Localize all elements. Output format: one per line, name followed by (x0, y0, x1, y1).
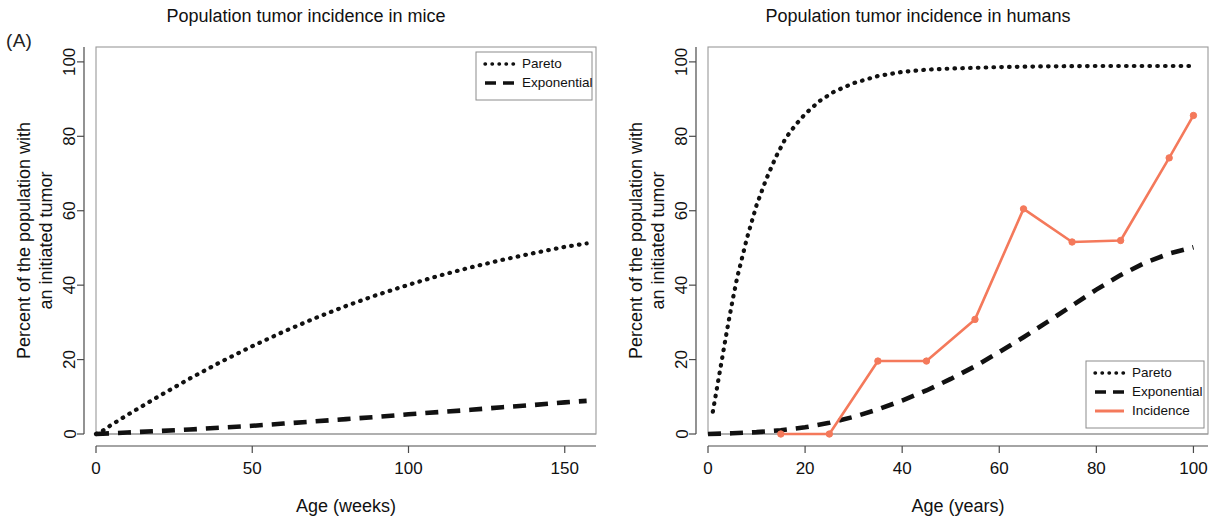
panel-b-plot: 020406080100020406080100Age (years)Perce… (612, 0, 1224, 522)
y-tick-label: 20 (61, 350, 80, 369)
y-axis-title-line1: Percent of the population with (14, 122, 34, 359)
y-tick-label: 0 (61, 429, 80, 438)
data-point (1166, 155, 1172, 161)
data-point (972, 316, 978, 322)
legend-label: Exponential (1132, 384, 1203, 399)
y-tick-label: 40 (61, 276, 80, 295)
data-point (875, 358, 881, 364)
legend-label: Exponential (522, 75, 593, 90)
data-point (1020, 206, 1026, 212)
y-tick-label: 0 (673, 429, 692, 438)
legend-label: Pareto (522, 56, 562, 71)
x-tick-label: 60 (990, 459, 1009, 478)
legend-label: Incidence (1132, 403, 1190, 418)
y-axis-title-line2: an initiated tumor (36, 171, 56, 309)
data-point (923, 358, 929, 364)
x-tick-label: 40 (893, 459, 912, 478)
figure-container: Population tumor incidence in mice (A) 0… (0, 0, 1224, 522)
panel-b-title: Population tumor incidence in humans (612, 6, 1224, 27)
x-tick-label: 50 (243, 459, 262, 478)
x-tick-label: 0 (703, 459, 712, 478)
y-tick-label: 60 (673, 201, 692, 220)
x-axis-title: Age (years) (911, 496, 1004, 516)
x-tick-label: 80 (1087, 459, 1106, 478)
y-tick-label: 80 (61, 127, 80, 146)
x-tick-label: 20 (796, 459, 815, 478)
panel-a-title: Population tumor incidence in mice (0, 6, 612, 27)
panel-b: Population tumor incidence in humans (B)… (612, 0, 1224, 522)
data-point (826, 431, 832, 437)
panel-a-plot: 050100150020406080100Age (weeks)Percent … (0, 0, 612, 522)
y-tick-label: 80 (673, 127, 692, 146)
y-tick-label: 40 (673, 276, 692, 295)
y-axis-title-line1: Percent of the population with (626, 122, 646, 359)
y-tick-label: 100 (673, 48, 692, 76)
y-tick-label: 100 (61, 48, 80, 76)
data-point (1190, 112, 1196, 118)
x-tick-label: 100 (394, 459, 422, 478)
data-point (1117, 237, 1123, 243)
data-point (778, 431, 784, 437)
x-tick-label: 0 (91, 459, 100, 478)
plot-frame (96, 47, 596, 434)
x-tick-label: 100 (1179, 459, 1207, 478)
panel-a: Population tumor incidence in mice (A) 0… (0, 0, 612, 522)
legend-label: Pareto (1132, 365, 1172, 380)
data-point (1069, 239, 1075, 245)
y-tick-label: 20 (673, 350, 692, 369)
x-axis-title: Age (weeks) (296, 496, 396, 516)
panel-a-tag: (A) (6, 30, 32, 52)
series-exponential (96, 401, 587, 434)
y-axis-title-line2: an initiated tumor (648, 171, 668, 309)
x-tick-label: 150 (551, 459, 579, 478)
y-tick-label: 60 (61, 201, 80, 220)
